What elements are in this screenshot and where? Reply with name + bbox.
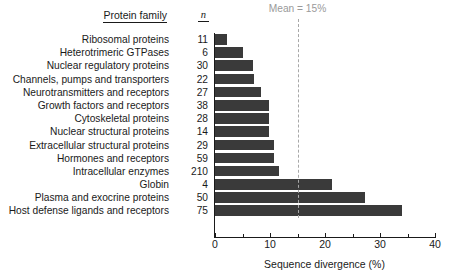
bar bbox=[215, 34, 227, 45]
category-label: Growth factors and receptors bbox=[38, 99, 169, 112]
category-row: Intracellular enzymes210 bbox=[0, 165, 211, 178]
category-n-value: 75 bbox=[182, 204, 208, 217]
category-row: Heterotrimeric GTPases6 bbox=[0, 46, 211, 59]
category-label: Hormones and receptors bbox=[57, 152, 169, 165]
bar bbox=[215, 113, 269, 124]
category-label: Ribosomal proteins bbox=[82, 33, 169, 46]
bar-slot bbox=[215, 59, 435, 72]
bar-slot bbox=[215, 165, 435, 178]
x-axis-tick-label: 40 bbox=[429, 238, 441, 250]
bar bbox=[215, 153, 274, 164]
category-n-value: 28 bbox=[182, 112, 208, 125]
category-n-value: 14 bbox=[182, 125, 208, 138]
category-label: Nuclear regulatory proteins bbox=[47, 59, 169, 72]
category-n-value: 6 bbox=[182, 46, 208, 59]
category-label: Globin bbox=[140, 178, 169, 191]
category-row: Neurotransmitters and receptors27 bbox=[0, 86, 211, 99]
bar-slot bbox=[215, 204, 435, 217]
bar bbox=[215, 140, 274, 151]
sequence-divergence-bar-chart: Protein family n Ribosomal proteins11Het… bbox=[0, 0, 461, 278]
category-row: Nuclear structural proteins14 bbox=[0, 125, 211, 138]
mean-dashed-line bbox=[298, 19, 299, 218]
category-label-column: Ribosomal proteins11Heterotrimeric GTPas… bbox=[0, 33, 211, 218]
category-n-value: 50 bbox=[182, 191, 208, 204]
category-n-value: 11 bbox=[182, 33, 208, 46]
category-label: Nuclear structural proteins bbox=[50, 125, 169, 138]
bar bbox=[215, 205, 402, 216]
bar-series bbox=[215, 33, 435, 218]
mean-label-text: Mean = 15% bbox=[269, 3, 326, 14]
category-row: Hormones and receptors59 bbox=[0, 152, 211, 165]
x-axis-tick-label: 0 bbox=[212, 238, 218, 250]
bar-slot bbox=[215, 112, 435, 125]
protein-family-header: Protein family bbox=[103, 9, 167, 23]
bar-slot bbox=[215, 33, 435, 46]
bar-slot bbox=[215, 73, 435, 86]
x-axis-tick-label: 10 bbox=[264, 238, 276, 250]
bar-slot bbox=[215, 152, 435, 165]
category-label: Neurotransmitters and receptors bbox=[23, 86, 169, 99]
bar bbox=[215, 179, 332, 190]
category-label: Heterotrimeric GTPases bbox=[60, 46, 169, 59]
category-row: Globin4 bbox=[0, 178, 211, 191]
category-row: Channels, pumps and transporters22 bbox=[0, 73, 211, 86]
plot-area: Mean = 15% bbox=[214, 33, 435, 238]
category-label: Channels, pumps and transporters bbox=[13, 73, 169, 86]
x-axis-title: Sequence divergence (%) bbox=[214, 258, 435, 270]
column-headers: Protein family n bbox=[0, 9, 211, 25]
category-n-value: 22 bbox=[182, 73, 208, 86]
category-label: Extracellular structural proteins bbox=[29, 139, 169, 152]
category-label: Host defense ligands and receptors bbox=[9, 204, 169, 217]
x-axis-tick-labels: 010203040 bbox=[214, 238, 435, 254]
bar bbox=[215, 87, 261, 98]
bar bbox=[215, 126, 269, 137]
bar-slot bbox=[215, 46, 435, 59]
category-label: Plasma and exocrine proteins bbox=[35, 191, 169, 204]
bar bbox=[215, 192, 365, 203]
category-row: Growth factors and receptors38 bbox=[0, 99, 211, 112]
category-row: Cytoskeletal proteins28 bbox=[0, 112, 211, 125]
bar-slot bbox=[215, 86, 435, 99]
category-label: Intracellular enzymes bbox=[73, 165, 169, 178]
bar-slot bbox=[215, 139, 435, 152]
category-n-value: 29 bbox=[182, 139, 208, 152]
category-n-value: 27 bbox=[182, 86, 208, 99]
category-n-value: 38 bbox=[182, 99, 208, 112]
bar-slot bbox=[215, 125, 435, 138]
bar bbox=[215, 100, 269, 111]
category-n-value: 30 bbox=[182, 59, 208, 72]
category-row: Host defense ligands and receptors75 bbox=[0, 204, 211, 217]
x-axis-tick-label: 30 bbox=[374, 238, 386, 250]
bar bbox=[215, 166, 279, 177]
bar bbox=[215, 47, 243, 58]
x-axis-tick-label: 20 bbox=[319, 238, 331, 250]
bar bbox=[215, 74, 254, 85]
bar bbox=[215, 60, 253, 71]
category-label: Cytoskeletal proteins bbox=[74, 112, 169, 125]
bar-slot bbox=[215, 191, 435, 204]
n-count-header: n bbox=[198, 9, 209, 22]
category-row: Nuclear regulatory proteins30 bbox=[0, 59, 211, 72]
category-row: Extracellular structural proteins29 bbox=[0, 139, 211, 152]
bar-slot bbox=[215, 99, 435, 112]
bar-slot bbox=[215, 178, 435, 191]
category-row: Plasma and exocrine proteins50 bbox=[0, 191, 211, 204]
category-n-value: 59 bbox=[182, 152, 208, 165]
category-n-value: 4 bbox=[182, 178, 208, 191]
category-n-value: 210 bbox=[182, 165, 208, 178]
category-row: Ribosomal proteins11 bbox=[0, 33, 211, 46]
